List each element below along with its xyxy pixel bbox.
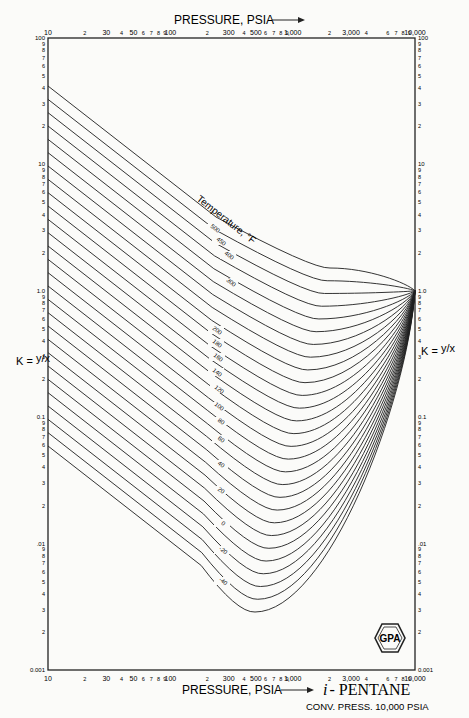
temperature-curve	[48, 273, 415, 447]
y-tick-label: 4	[418, 464, 421, 470]
y-tick-label: 8	[42, 174, 45, 180]
x-tick-label: 300	[223, 675, 235, 682]
y-tick-label: 8	[42, 426, 45, 432]
x-tick-label: 4	[120, 30, 123, 36]
y-tick-label: 8	[42, 300, 45, 306]
x-tick-label: 4	[365, 30, 368, 36]
y-tick-label: 7	[42, 560, 45, 566]
y-tick-label: 6	[418, 316, 421, 322]
x-tick-label: 4	[242, 676, 245, 682]
y-tick-label: 8	[42, 553, 45, 559]
temperature-curve	[48, 291, 415, 523]
gpa-logo: GPA	[375, 624, 405, 652]
x-tick-label: 8	[279, 676, 282, 682]
x-tick-label: 1,000	[284, 675, 302, 682]
y-tick-label: 6	[42, 63, 45, 69]
y-tick-label: 7	[418, 434, 421, 440]
x-tick-label: 8	[279, 30, 282, 36]
x-tick-label: 1,000	[284, 29, 302, 36]
compound-name: - PENTANE	[329, 681, 410, 698]
compound-prefix: i	[323, 681, 327, 698]
y-tick-label: 5	[418, 199, 421, 205]
y-tick-label: 9	[42, 546, 45, 552]
temperature-curve	[48, 179, 415, 357]
right-axis-label: K = y/x	[421, 342, 455, 357]
x-tick-label: 10	[44, 675, 52, 682]
x-tick-label: 100	[164, 29, 176, 36]
x-tick-label: 8	[157, 30, 160, 36]
temperature-curve	[48, 291, 415, 472]
y-tick-label: 2	[418, 250, 421, 256]
y-tick-label: 7	[42, 307, 45, 313]
y-tick-label: 3	[42, 101, 45, 107]
y-tick-label: 2	[418, 376, 421, 382]
y-tick-label: 5	[418, 326, 421, 332]
y-tick-label: 4	[42, 591, 45, 597]
y-tick-label: 9	[42, 167, 45, 173]
x-tick-label: 300	[223, 29, 235, 36]
y-tick-label: 9	[418, 167, 421, 173]
y-tick-label: 5	[42, 326, 45, 332]
temperature-curves	[48, 86, 415, 612]
x-tick-label: 30	[102, 29, 110, 36]
y-tick-label: 4	[42, 212, 45, 218]
y-tick-label: 2	[42, 250, 45, 256]
y-tick-label: 2	[42, 123, 45, 129]
y-tick-label: 8	[418, 47, 421, 53]
temperature-curve	[48, 206, 415, 383]
y-tick-label: 4	[42, 85, 45, 91]
x-tick-label: 30	[102, 675, 110, 682]
y-tick-label: 8	[418, 300, 421, 306]
x-tick-label: 7	[150, 676, 153, 682]
y-tick-label: 6	[42, 569, 45, 575]
x-tick-label: 4	[242, 30, 245, 36]
y-tick-label: 2	[42, 629, 45, 635]
y-tick-label: 9	[418, 420, 421, 426]
x-tick-label: 50	[130, 675, 138, 682]
temperature-curve	[48, 291, 415, 599]
y-tick-label: 5	[42, 452, 45, 458]
y-tick-label: 2	[42, 503, 45, 509]
x-tick-label: 8	[157, 676, 160, 682]
y-tick-label: 3	[418, 607, 421, 613]
y-tick-label: 4	[42, 464, 45, 470]
y-tick-label: 5	[42, 579, 45, 585]
y-tick-label: 6	[42, 442, 45, 448]
y-tick-label: 3	[418, 101, 421, 107]
y-tick-label: 4	[418, 338, 421, 344]
y-tick-label: 8	[418, 553, 421, 559]
y-tick-label: 6	[418, 442, 421, 448]
x-tick-label: 10	[44, 29, 52, 36]
x-tick-label: 500	[250, 675, 262, 682]
y-tick-label: 8	[418, 174, 421, 180]
bottom-axis-arrow-icon	[281, 687, 314, 693]
x-tick-label: 2	[206, 30, 209, 36]
convergence-pressure: CONV. PRESS. 10,000 PSIA	[306, 701, 429, 712]
temperature-curve	[48, 113, 415, 294]
y-tick-label: 5	[42, 73, 45, 79]
top-axis-title: PRESSURE, PSIA	[174, 13, 274, 27]
y-tick-label: 2	[418, 629, 421, 635]
y-tick-label: 7	[42, 55, 45, 61]
y-tick-label: 8	[42, 47, 45, 53]
x-tick-label: 6	[264, 676, 267, 682]
y-tick-label: 0.001	[30, 667, 46, 673]
top-axis-arrow-icon	[272, 17, 305, 23]
y-tick-label: 8	[418, 426, 421, 432]
y-tick-label: 9	[42, 41, 45, 47]
left-axis-label: K = y/x	[16, 352, 50, 367]
y-tick-label: 4	[42, 338, 45, 344]
y-tick-label: 5	[42, 199, 45, 205]
y-tick-label: 3	[418, 480, 421, 486]
y-tick-label: 2	[418, 123, 421, 129]
x-tick-label: 2	[328, 30, 331, 36]
y-tick-label: 5	[418, 579, 421, 585]
x-tick-label: 6	[264, 30, 267, 36]
y-tick-label: 7	[418, 181, 421, 187]
y-tick-label: 4	[418, 85, 421, 91]
x-tick-label: 7	[272, 676, 275, 682]
temperature-curve	[48, 291, 415, 612]
x-tick-label: 500	[250, 29, 262, 36]
y-tick-label: 3	[42, 480, 45, 486]
y-tick-label: 7	[42, 434, 45, 440]
